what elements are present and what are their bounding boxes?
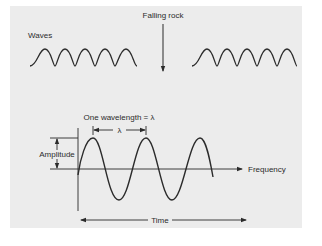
falling-rock-label: Falling rock — [143, 11, 185, 20]
amplitude-marker: Amplitude — [39, 138, 78, 168]
lambda-label: λ — [118, 126, 122, 135]
frequency-label: Frequency — [248, 165, 286, 174]
wavelength-label: One wavelength = λ — [84, 113, 155, 122]
time-axis: Time — [81, 216, 246, 225]
waves-label: Waves — [28, 31, 52, 40]
wavelength-marker: λ — [93, 126, 146, 135]
time-label: Time — [151, 216, 169, 225]
amplitude-label: Amplitude — [39, 150, 75, 159]
right-wave-train — [192, 49, 297, 66]
left-wave-train — [30, 49, 137, 66]
wave-diagram: Waves Falling rock One wavelength = λ λ … — [0, 0, 322, 246]
